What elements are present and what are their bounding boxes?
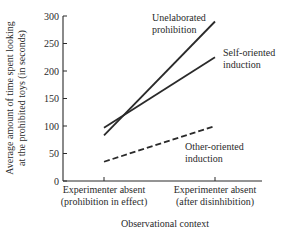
x-axis: Experimenter absent(prohibition in effec…	[61, 177, 262, 208]
x-axis-title: Observational context	[121, 218, 209, 229]
y-tick-label: 100	[44, 121, 59, 132]
x-category-label: Experimenter absent	[174, 184, 257, 195]
series-line	[104, 57, 215, 127]
x-category-label: (after disinhibition)	[176, 196, 254, 208]
x-category-label: Experimenter absent	[63, 184, 146, 195]
series-line	[104, 22, 215, 136]
y-axis: 050100150200250300	[44, 11, 67, 187]
series-label: Unelaborated	[152, 12, 206, 23]
x-category-label: (prohibition in effect)	[61, 196, 147, 208]
y-axis-title-line: at the prohibited toys (in seconds)	[16, 30, 28, 166]
y-tick-label: 50	[49, 148, 59, 159]
series-label: induction	[223, 59, 261, 70]
series-labels: UnelaboratedprohibitionSelf-orientedindu…	[152, 12, 275, 164]
series-label: Other-oriented	[185, 141, 244, 152]
y-tick-label: 200	[44, 66, 59, 77]
series-label: prohibition	[152, 24, 196, 35]
y-tick-label: 0	[54, 176, 59, 187]
y-tick-label: 250	[44, 38, 59, 49]
line-chart: Average amount of time spent lookingat t…	[0, 0, 284, 235]
series-label: Self-oriented	[223, 47, 275, 58]
series-label: induction	[185, 153, 223, 164]
y-axis-title-line: Average amount of time spent looking	[4, 21, 15, 174]
y-axis-title: Average amount of time spent lookingat t…	[4, 21, 28, 174]
y-tick-label: 300	[44, 11, 59, 22]
y-tick-label: 150	[44, 93, 59, 104]
